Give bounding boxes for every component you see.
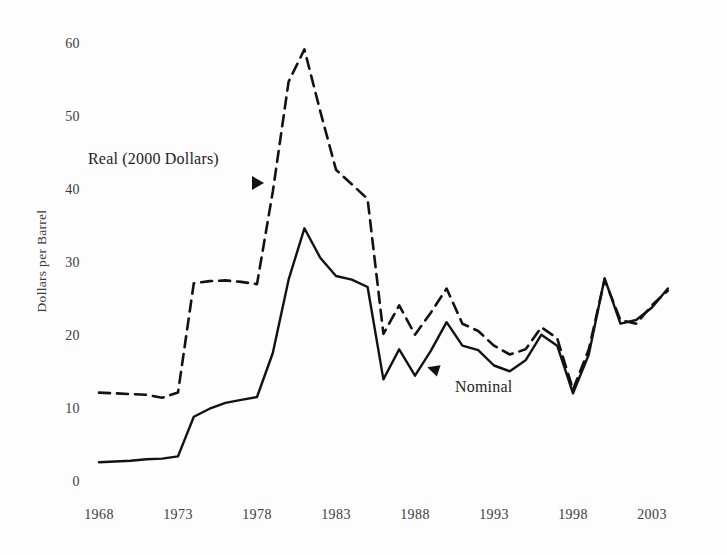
series-real (99, 49, 668, 397)
plot-area (0, 0, 727, 555)
series-label-nominal: Nominal (455, 378, 512, 396)
series-label-real: Real (2000 Dollars) (88, 150, 219, 168)
arrow-pointer-real-icon (252, 176, 264, 190)
chart-page: 60 50 40 30 20 10 0 Dollars per Barrel 1… (0, 0, 727, 555)
